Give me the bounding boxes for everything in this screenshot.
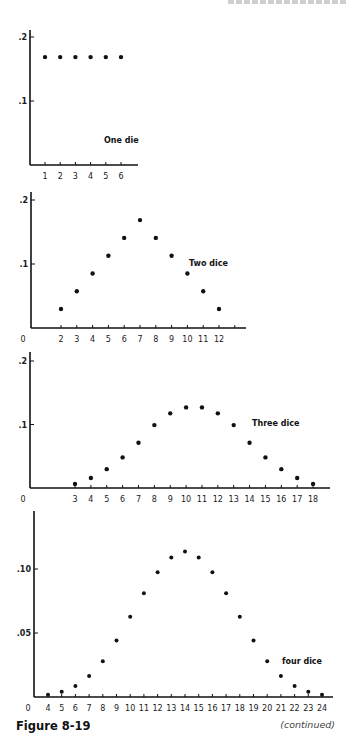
data-point [46,693,50,697]
data-point [75,289,79,293]
data-point [87,674,91,678]
y-tick-label: .1 [18,421,27,430]
x-tick-label: 21 [276,704,286,713]
data-point [58,55,62,59]
data-point [122,236,126,240]
x-tick-label: 23 [303,704,313,713]
x-tick-label: 11 [139,704,149,713]
data-point [306,690,310,694]
x-tick-label: 6 [73,704,78,713]
x-tick-label: 18 [235,704,245,713]
data-point [197,556,201,560]
x-tick-label: 3 [72,495,77,504]
data-point [105,467,109,471]
x-tick-label: 7 [87,704,92,713]
chart-panel-3: .2.134567891011121314151617180Three dice [18,352,330,504]
x-tick-label: 3 [74,335,79,344]
data-point [263,455,267,459]
y-tick-label: .05 [17,629,32,638]
x-tick-label: 8 [100,704,105,713]
x-tick-label: 24 [317,704,327,713]
x-tick-label: 19 [248,704,258,713]
data-point [59,307,63,311]
data-point [217,307,221,311]
data-point [210,570,214,574]
y-tick-label: .10 [17,565,32,574]
x-tick-label: 11 [197,495,207,504]
data-point [115,639,119,643]
data-point [60,690,64,694]
x-tick-label: 10 [181,495,191,504]
series-label: Two dice [189,259,228,268]
x-tick-label: 7 [136,495,141,504]
data-point [183,550,187,554]
data-point [128,615,132,619]
data-point [73,55,77,59]
x-tick-label: 15 [260,495,270,504]
data-point [247,441,251,445]
series-label: One die [104,136,139,145]
data-point [216,411,220,415]
data-point [154,236,158,240]
x-tick-label: 6 [120,495,125,504]
x-tick-label: 14 [180,704,190,713]
data-point [169,556,173,560]
data-point [293,684,297,688]
data-point [120,455,124,459]
data-point [169,253,173,257]
data-point [101,659,105,663]
x-tick-label: 5 [106,335,111,344]
x-tick-label: 17 [221,704,231,713]
y-tick-label: .2 [18,357,27,366]
x-tick-label: 2 [58,172,63,181]
chart-panel-1: .2.1123456One die [18,30,139,181]
chart-panel-2: .2.1234567891011120Two dice [19,192,246,344]
data-point [90,271,94,275]
chart-panel-4: .10.054567891011121314151617181920212223… [17,511,333,713]
data-point [43,55,47,59]
x-origin-label: 0 [20,495,25,504]
x-tick-label: 4 [88,172,93,181]
x-tick-label: 12 [214,335,224,344]
y-tick-label: .2 [19,196,28,205]
data-point [224,591,228,595]
data-point [279,467,283,471]
x-tick-label: 5 [104,495,109,504]
data-point [106,253,110,257]
data-point [168,411,172,415]
y-tick-label: .2 [18,33,27,42]
series-label: four dice [282,657,323,666]
x-tick-label: 11 [198,335,208,344]
data-point [73,684,77,688]
x-tick-label: 9 [114,704,119,713]
x-tick-label: 10 [182,335,192,344]
x-tick-label: 2 [58,335,63,344]
data-point [232,423,236,427]
data-point [138,218,142,222]
x-tick-label: 14 [244,495,254,504]
data-point [201,289,205,293]
x-tick-label: 18 [308,495,318,504]
x-tick-label: 13 [166,704,176,713]
data-point [136,441,140,445]
y-tick-label: .1 [19,260,28,269]
data-point [89,476,93,480]
data-point [156,570,160,574]
x-tick-label: 5 [59,704,64,713]
x-tick-label: 6 [118,172,123,181]
x-tick-label: 13 [229,495,239,504]
data-point [320,693,324,697]
x-tick-label: 8 [152,495,157,504]
x-tick-label: 20 [262,704,272,713]
x-tick-label: 4 [45,704,50,713]
data-point [238,615,242,619]
data-point [295,476,299,480]
dice-distribution-figure: .2.1123456One die.2.1234567891011120Two … [0,0,353,756]
series-label: Three dice [252,419,300,428]
x-tick-label: 15 [194,704,204,713]
data-point [184,405,188,409]
x-tick-label: 7 [137,335,142,344]
x-tick-label: 16 [207,704,217,713]
data-point [265,659,269,663]
data-point [200,405,204,409]
